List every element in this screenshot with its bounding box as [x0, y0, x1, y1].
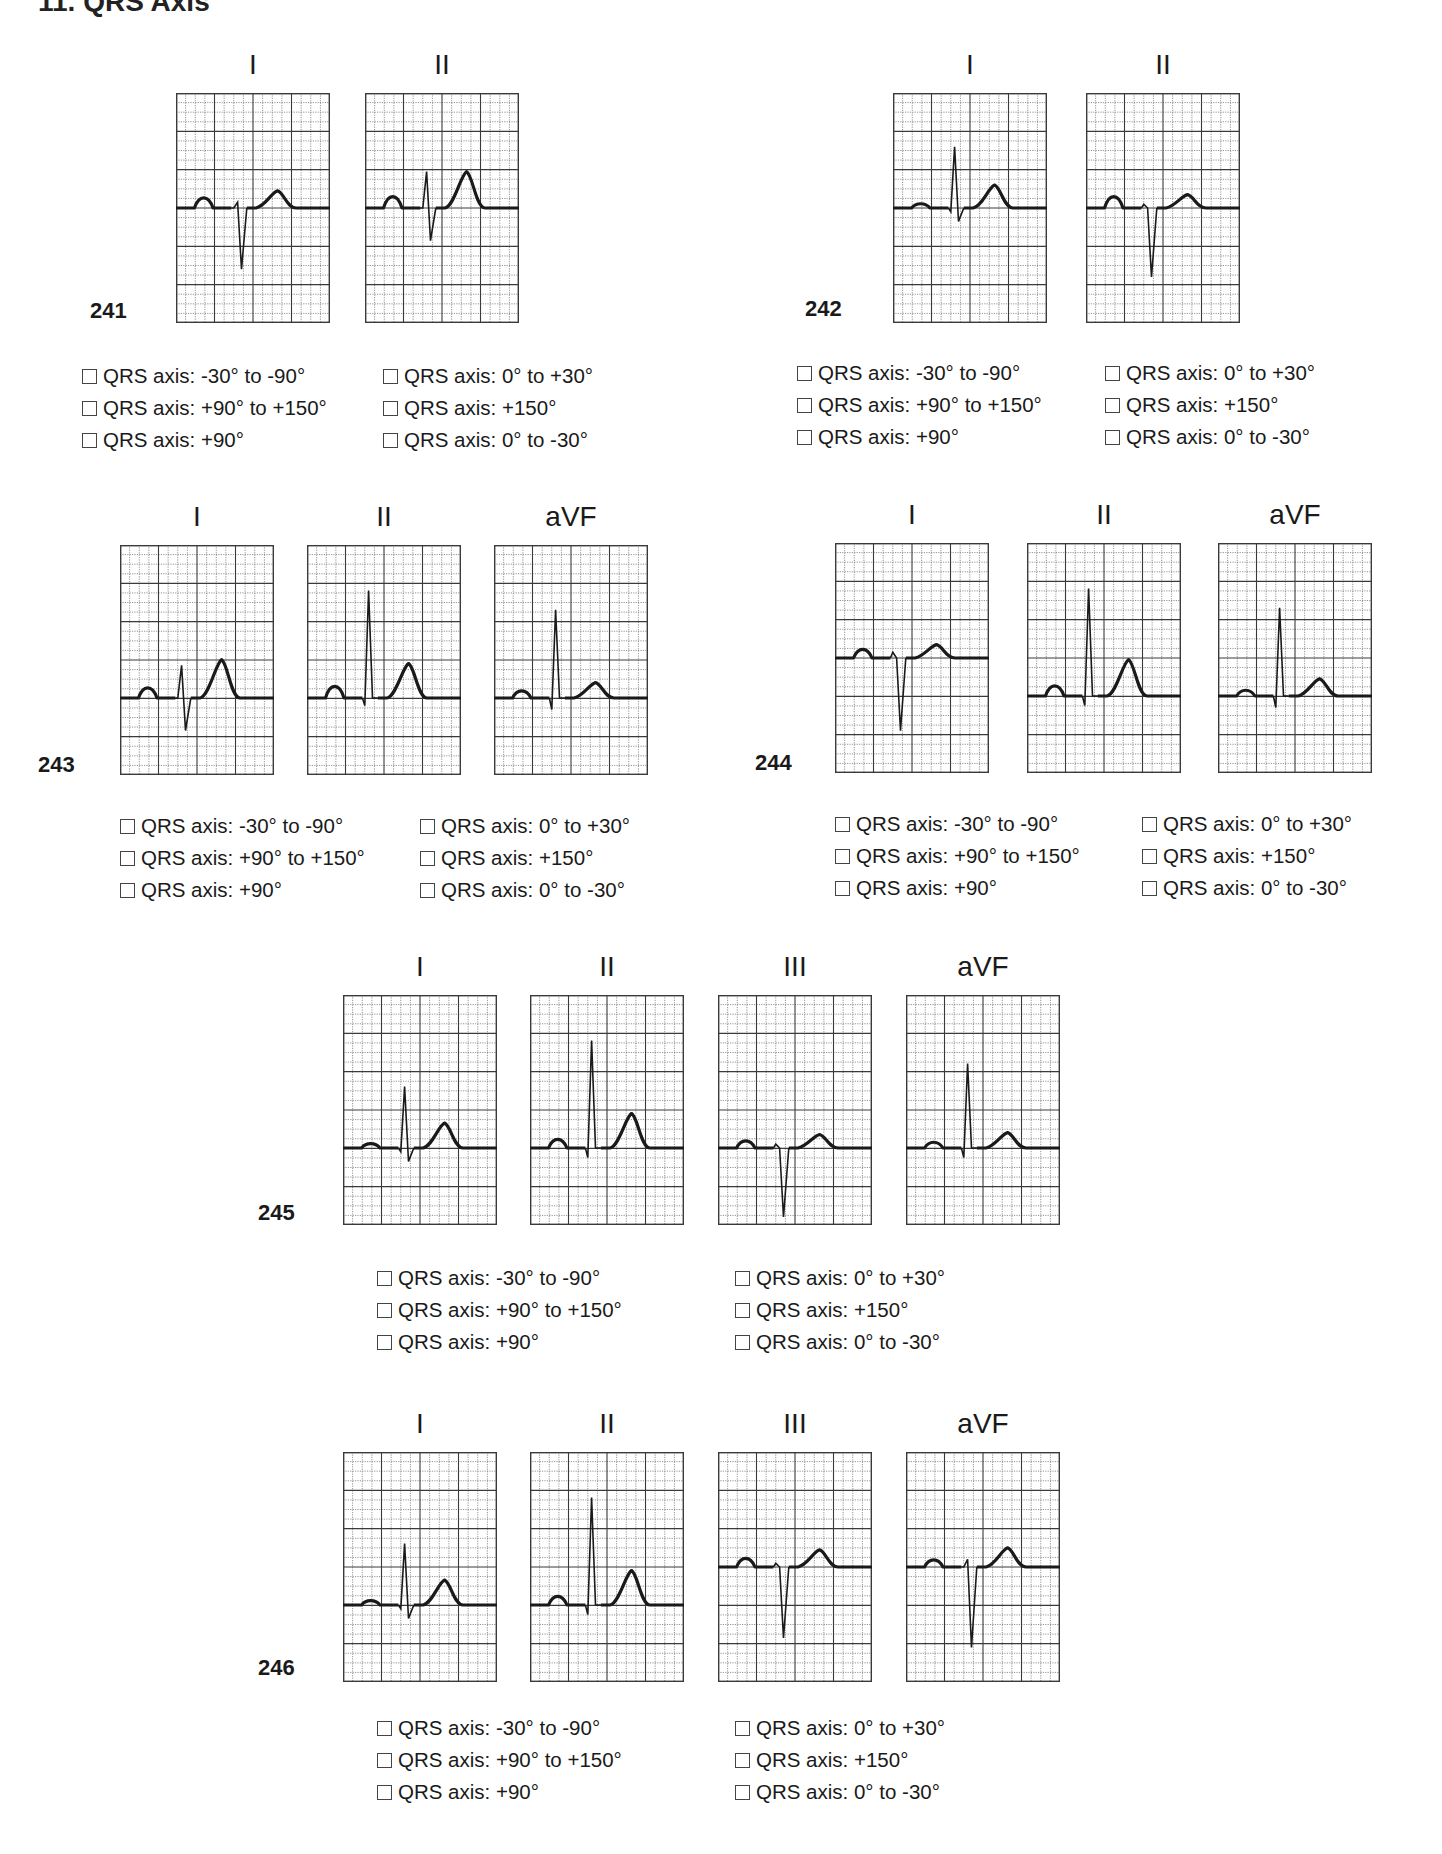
checkbox[interactable]	[735, 1303, 750, 1318]
axis-option[interactable]: QRS axis: 0° to +30°	[735, 1712, 945, 1744]
axis-option[interactable]: QRS axis: +90° to +150°	[120, 842, 365, 874]
lead-label: aVF	[903, 1408, 1063, 1440]
checkbox[interactable]	[835, 881, 850, 896]
checkbox[interactable]	[377, 1721, 392, 1736]
option-label: QRS axis: 0° to +30°	[404, 360, 593, 392]
axis-option[interactable]: QRS axis: 0° to -30°	[1142, 872, 1347, 904]
checkbox[interactable]	[120, 819, 135, 834]
checkbox[interactable]	[377, 1303, 392, 1318]
option-label: QRS axis: +90°	[818, 421, 959, 453]
ecg-strip-lead-i	[120, 545, 274, 775]
axis-option[interactable]: QRS axis: +150°	[1142, 840, 1315, 872]
axis-option[interactable]: QRS axis: 0° to -30°	[383, 424, 588, 456]
axis-option[interactable]: QRS axis: 0° to -30°	[735, 1776, 940, 1808]
axis-option[interactable]: QRS axis: +90°	[377, 1776, 539, 1808]
checkbox[interactable]	[120, 851, 135, 866]
checkbox[interactable]	[735, 1271, 750, 1286]
checkbox[interactable]	[1142, 881, 1157, 896]
axis-option[interactable]: QRS axis: -30° to -90°	[797, 357, 1020, 389]
checkbox[interactable]	[377, 1753, 392, 1768]
ecg-strip-lead-ii	[530, 1452, 684, 1682]
lead-label: III	[715, 951, 875, 983]
axis-option[interactable]: QRS axis: 0° to -30°	[420, 874, 625, 906]
axis-option[interactable]: QRS axis: +150°	[383, 392, 556, 424]
checkbox[interactable]	[383, 433, 398, 448]
option-label: QRS axis: -30° to -90°	[398, 1262, 600, 1294]
axis-option[interactable]: QRS axis: +150°	[1105, 389, 1278, 421]
axis-option[interactable]: QRS axis: 0° to +30°	[1142, 808, 1352, 840]
checkbox[interactable]	[420, 819, 435, 834]
axis-option[interactable]: QRS axis: +150°	[420, 842, 593, 874]
axis-option[interactable]: QRS axis: -30° to -90°	[377, 1712, 600, 1744]
checkbox[interactable]	[377, 1335, 392, 1350]
lead-label: I	[173, 49, 333, 81]
axis-option[interactable]: QRS axis: -30° to -90°	[82, 360, 305, 392]
checkbox[interactable]	[797, 398, 812, 413]
checkbox[interactable]	[1142, 817, 1157, 832]
axis-option[interactable]: QRS axis: +90°	[835, 872, 997, 904]
ecg-strip-lead-avf	[906, 995, 1060, 1225]
option-label: QRS axis: -30° to -90°	[141, 810, 343, 842]
ecg-strip-lead-avf	[1218, 543, 1372, 773]
option-label: QRS axis: -30° to -90°	[103, 360, 305, 392]
checkbox[interactable]	[82, 369, 97, 384]
option-label: QRS axis: +150°	[756, 1744, 908, 1776]
axis-option[interactable]: QRS axis: +90° to +150°	[797, 389, 1042, 421]
axis-option[interactable]: QRS axis: +90° to +150°	[377, 1294, 622, 1326]
option-label: QRS axis: 0° to -30°	[1126, 421, 1310, 453]
axis-option[interactable]: QRS axis: +90° to +150°	[82, 392, 327, 424]
axis-option[interactable]: QRS axis: +90° to +150°	[835, 840, 1080, 872]
checkbox[interactable]	[120, 883, 135, 898]
checkbox[interactable]	[420, 851, 435, 866]
option-label: QRS axis: +90° to +150°	[103, 392, 327, 424]
lead-label: II	[527, 1408, 687, 1440]
axis-option[interactable]: QRS axis: 0° to -30°	[735, 1326, 940, 1358]
checkbox[interactable]	[1105, 430, 1120, 445]
axis-option[interactable]: QRS axis: +90° to +150°	[377, 1744, 622, 1776]
axis-option[interactable]: QRS axis: 0° to +30°	[420, 810, 630, 842]
problem-number: 243	[38, 752, 75, 778]
axis-option[interactable]: QRS axis: -30° to -90°	[835, 808, 1058, 840]
ecg-strip-lead-ii	[365, 93, 519, 323]
axis-option[interactable]: QRS axis: +90°	[120, 874, 282, 906]
checkbox[interactable]	[735, 1721, 750, 1736]
axis-option[interactable]: QRS axis: +90°	[797, 421, 959, 453]
option-label: QRS axis: 0° to -30°	[404, 424, 588, 456]
checkbox[interactable]	[1105, 366, 1120, 381]
checkbox[interactable]	[797, 430, 812, 445]
checkbox[interactable]	[1105, 398, 1120, 413]
axis-option[interactable]: QRS axis: -30° to -90°	[377, 1262, 600, 1294]
checkbox[interactable]	[377, 1785, 392, 1800]
axis-option[interactable]: QRS axis: -30° to -90°	[120, 810, 343, 842]
option-label: QRS axis: 0° to -30°	[756, 1326, 940, 1358]
option-label: QRS axis: +150°	[756, 1294, 908, 1326]
lead-label: II	[1024, 499, 1184, 531]
checkbox[interactable]	[797, 366, 812, 381]
axis-option[interactable]: QRS axis: +150°	[735, 1744, 908, 1776]
checkbox[interactable]	[735, 1335, 750, 1350]
axis-option[interactable]: QRS axis: +150°	[735, 1294, 908, 1326]
axis-option[interactable]: QRS axis: 0° to +30°	[383, 360, 593, 392]
axis-option[interactable]: QRS axis: 0° to +30°	[1105, 357, 1315, 389]
checkbox[interactable]	[383, 401, 398, 416]
lead-label: I	[340, 1408, 500, 1440]
axis-option[interactable]: QRS axis: 0° to -30°	[1105, 421, 1310, 453]
ecg-strip-lead-avf	[906, 1452, 1060, 1682]
ecg-strip-lead-i	[343, 995, 497, 1225]
checkbox[interactable]	[835, 849, 850, 864]
option-label: QRS axis: +90° to +150°	[818, 389, 1042, 421]
axis-option[interactable]: QRS axis: +90°	[82, 424, 244, 456]
axis-option[interactable]: QRS axis: 0° to +30°	[735, 1262, 945, 1294]
axis-option[interactable]: QRS axis: +90°	[377, 1326, 539, 1358]
checkbox[interactable]	[1142, 849, 1157, 864]
checkbox[interactable]	[377, 1271, 392, 1286]
checkbox[interactable]	[735, 1785, 750, 1800]
checkbox[interactable]	[82, 401, 97, 416]
checkbox[interactable]	[835, 817, 850, 832]
checkbox[interactable]	[82, 433, 97, 448]
lead-label: II	[1083, 49, 1243, 81]
checkbox[interactable]	[735, 1753, 750, 1768]
checkbox[interactable]	[420, 883, 435, 898]
ecg-strip-lead-i	[343, 1452, 497, 1682]
checkbox[interactable]	[383, 369, 398, 384]
